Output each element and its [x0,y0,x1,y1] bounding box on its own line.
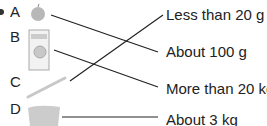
match-line-a [51,15,158,52]
bag-icon [28,106,60,126]
match-line-c [70,15,163,81]
option-less-than-20g: Less than 20 g [166,7,264,22]
apple-icon [31,4,45,21]
option-about-100g: About 100 g [166,44,247,59]
option-about-3kg: About 3 kg [166,112,238,126]
pencil-icon [28,78,65,97]
item-label-b: B [10,29,20,44]
bullet-icon [0,9,4,15]
item-label-d: D [10,101,21,116]
option-more-than-20kg: More than 20 kg [166,81,267,96]
item-label-c: C [10,74,21,89]
item-label-a: A [10,4,20,19]
washing-machine-icon [29,30,49,70]
